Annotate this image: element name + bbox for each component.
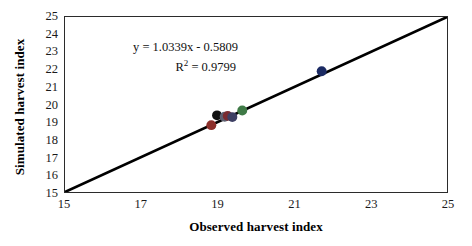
y-tick-label: 18 xyxy=(36,134,58,147)
y-tick-label: 20 xyxy=(36,99,58,112)
x-axis-title: Observed harvest index xyxy=(64,219,448,235)
y-tick-label: 25 xyxy=(36,10,58,23)
y-axis-title: Simulated harvest index xyxy=(12,17,28,197)
x-tick-label: 19 xyxy=(203,198,233,211)
r-squared: R2 = 0.9799 xyxy=(133,57,238,77)
data-point xyxy=(227,112,237,122)
y-tick-label: 17 xyxy=(36,152,58,165)
data-point xyxy=(237,106,247,116)
y-tick-label: 16 xyxy=(36,169,58,182)
y-tick-label: 23 xyxy=(36,45,58,58)
regression-annotation: y = 1.0339x - 0.5809 R2 = 0.9799 xyxy=(133,39,238,77)
data-point xyxy=(206,120,216,130)
one-to-one-line xyxy=(65,17,447,192)
y-tick-label: 24 xyxy=(36,28,58,41)
chart-figure: Simulated harvest index 1516171819202122… xyxy=(0,0,472,246)
plot-area: y = 1.0339x - 0.5809 R2 = 0.9799 xyxy=(64,16,448,193)
x-tick-label: 17 xyxy=(126,198,156,211)
y-tick-label: 19 xyxy=(36,116,58,129)
data-point xyxy=(317,66,327,76)
reference-line xyxy=(65,17,447,192)
x-tick-label: 21 xyxy=(279,198,309,211)
x-tick-label: 23 xyxy=(356,198,386,211)
r-squared-value: = 0.9799 xyxy=(188,60,236,74)
x-tick-label: 15 xyxy=(49,198,79,211)
plot-canvas xyxy=(65,17,447,192)
regression-equation: y = 1.0339x - 0.5809 xyxy=(133,39,238,57)
y-tick-label: 21 xyxy=(36,81,58,94)
x-tick-label: 25 xyxy=(433,198,463,211)
r-squared-symbol: R xyxy=(175,60,183,74)
y-tick-label: 22 xyxy=(36,63,58,76)
